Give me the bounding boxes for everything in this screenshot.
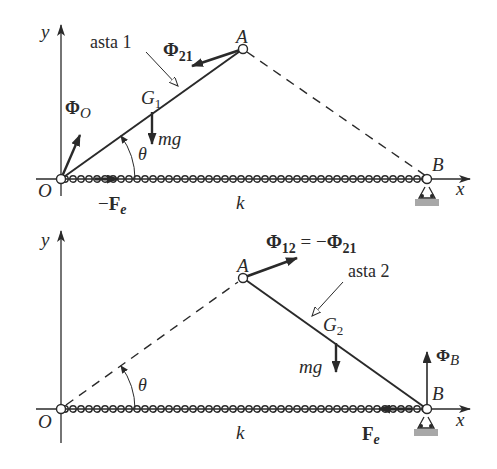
top-y-label: y [39, 21, 50, 42]
bottom-b-label: B [432, 383, 444, 404]
rod-2-pointer [312, 282, 343, 316]
bottom-diagram: y x O A B asta 2 G2 Φ12 = −Φ21 ΦB mg θ F… [36, 229, 470, 447]
bottom-angle-arc [121, 366, 135, 409]
phi-b-label: ΦB [436, 346, 459, 368]
phi12-label: Φ12 = −Φ21 [266, 231, 356, 256]
top-dashed-line [247, 52, 426, 176]
force-phi12-arrow [245, 258, 297, 277]
bottom-hinge-o [57, 405, 66, 414]
rod-1-label: asta 1 [90, 32, 131, 52]
spring-force-label-bottom: Fe [362, 423, 380, 447]
theta-label-top: θ [138, 144, 147, 164]
spring-label-bottom: k [236, 422, 245, 443]
top-x-label: x [455, 178, 465, 199]
top-hinge-o [57, 175, 66, 184]
bottom-y-label: y [39, 229, 50, 250]
phi-o-label: ΦO [65, 98, 91, 121]
top-origin-label: O [38, 180, 52, 201]
weight-label-top: mg [158, 128, 181, 149]
bottom-spring [63, 404, 425, 414]
top-angle-arc [121, 136, 135, 179]
bottom-a-label: A [235, 255, 249, 276]
g1-label: G1 [141, 87, 161, 111]
force-phi21-arrow [192, 50, 240, 66]
top-diagram: y x O A B asta 1 G1 Φ21 ΦO mg θ −Fe k [36, 21, 470, 217]
phi21-label: Φ21 [163, 39, 193, 64]
bottom-x-label: x [455, 409, 465, 430]
weight-label-bottom: mg [299, 356, 322, 377]
two-rod-diagram: y x O A B asta 1 G1 Φ21 ΦO mg θ −Fe k [0, 0, 497, 469]
top-b-label: B [432, 154, 444, 175]
top-a-label: A [234, 26, 248, 47]
spring-label-top: k [236, 192, 245, 213]
g2-label: G2 [323, 314, 343, 338]
theta-label-bottom: θ [138, 375, 147, 395]
bottom-dashed-line [66, 282, 238, 405]
rod-2-label: asta 2 [348, 261, 389, 281]
bottom-origin-label: O [38, 411, 52, 432]
spring-force-label-top: −Fe [98, 193, 127, 217]
